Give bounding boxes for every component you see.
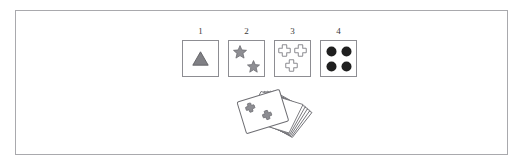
card-deck-illustration — [225, 86, 330, 138]
illustration-canvas: 1 2 3 — [0, 0, 523, 166]
card-slot-2[interactable]: 2 — [228, 26, 265, 77]
card-number-3: 3 — [290, 26, 295, 36]
dot-icon — [341, 46, 352, 57]
numbered-card-row: 1 2 3 — [182, 26, 357, 77]
star-icon — [247, 60, 260, 73]
dot-icon — [326, 61, 337, 72]
card-number-1: 1 — [198, 26, 203, 36]
cross-icon — [285, 59, 298, 72]
star-icon — [233, 45, 247, 59]
card-slot-4[interactable]: 4 — [320, 26, 357, 77]
dot-icon — [326, 46, 337, 57]
card-face-3[interactable] — [274, 40, 311, 77]
card-number-4: 4 — [336, 26, 341, 36]
card-face-4[interactable] — [320, 40, 357, 77]
card-deck[interactable] — [225, 86, 330, 138]
dot-icon — [341, 61, 352, 72]
card-number-2: 2 — [244, 26, 249, 36]
cross-icon — [278, 44, 291, 57]
card-slot-1[interactable]: 1 — [182, 26, 219, 77]
cross-icon — [294, 44, 307, 57]
card-slot-3[interactable]: 3 — [274, 26, 311, 77]
card-face-1[interactable] — [182, 40, 219, 77]
card-face-2[interactable] — [228, 40, 265, 77]
triangle-icon — [192, 51, 209, 66]
